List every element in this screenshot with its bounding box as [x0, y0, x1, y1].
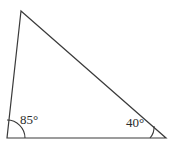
triangle-figure: 85° 40° [0, 0, 172, 145]
angle-label-85: 85° [20, 113, 38, 126]
angle-label-40: 40° [126, 116, 144, 129]
